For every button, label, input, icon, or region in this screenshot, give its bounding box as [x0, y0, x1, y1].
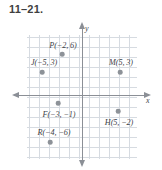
- point-label-f: F(−3, −1): [43, 110, 76, 119]
- exercise-number-heading: 11–21.: [9, 3, 43, 15]
- point-label-j: J(−5, 3): [31, 58, 57, 67]
- x-axis-left-arrow-icon: [12, 92, 19, 98]
- point-marker-m: [118, 70, 123, 75]
- point-marker-p: [60, 52, 65, 57]
- x-axis-label: x: [146, 96, 150, 105]
- point-label-h: H(5, −2): [105, 118, 133, 127]
- point-label-r: R(−4, −6): [38, 128, 71, 137]
- point-marker-f: [56, 101, 61, 106]
- point-marker-h: [116, 109, 121, 114]
- y-axis-up-arrow-icon: [79, 22, 85, 29]
- point-label-p: P(−2, 6): [49, 41, 76, 50]
- y-axis-down-arrow-icon: [79, 160, 85, 167]
- point-label-m: M(5, 3): [109, 58, 133, 67]
- y-axis-label: y: [85, 24, 89, 33]
- point-marker-j: [40, 70, 45, 75]
- point-marker-r: [48, 140, 53, 145]
- figure-root: 11–21. y x P(−2, 6)J(−5, 3)M(5, 3)F(−3, …: [0, 0, 162, 170]
- y-axis-line: [82, 28, 83, 162]
- coordinate-plane: y x P(−2, 6)J(−5, 3)M(5, 3)F(−3, −1)H(5,…: [0, 24, 162, 170]
